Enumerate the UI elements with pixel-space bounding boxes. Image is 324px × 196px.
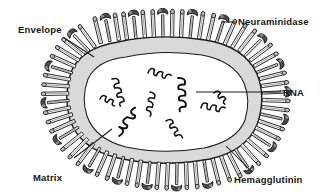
influenza-virus-diagram: Envelope Neuraminidase RNA Hemagglutinin… bbox=[0, 0, 324, 196]
label-hemagglutinin: Hemagglutinin bbox=[234, 174, 303, 185]
hemagglutinin-spike bbox=[151, 10, 156, 38]
neuraminidase-spike bbox=[141, 161, 155, 190]
neuraminidase-spike bbox=[157, 8, 168, 37]
hemagglutinin-spike bbox=[43, 73, 71, 82]
neuraminidase-spike bbox=[199, 159, 214, 189]
label-rna: RNA bbox=[283, 87, 304, 98]
hemagglutinin-spike bbox=[43, 106, 71, 115]
hemagglutinin-spike bbox=[262, 105, 290, 112]
hemagglutinin-spike bbox=[184, 162, 189, 190]
neuraminidase-spike bbox=[128, 10, 141, 39]
hemagglutinin-spike bbox=[155, 162, 161, 190]
label-matrix-protein: Matrix Protein bbox=[33, 150, 67, 196]
label-envelope: Envelope bbox=[18, 24, 62, 35]
hemagglutinin-spike bbox=[206, 13, 216, 41]
hemagglutinin-spike bbox=[193, 161, 199, 189]
neuraminidase-spike bbox=[185, 9, 198, 38]
hemagglutinin-spike bbox=[77, 24, 96, 49]
hemagglutinin-spike bbox=[165, 163, 170, 191]
hemagglutinin-spike bbox=[92, 16, 102, 44]
hemagglutinin-spike bbox=[197, 11, 205, 39]
label-neuraminidase: Neuraminidase bbox=[238, 16, 309, 27]
hemagglutinin-spike bbox=[125, 158, 134, 186]
hemagglutinin-spike bbox=[141, 10, 147, 38]
hemagglutinin-spike bbox=[121, 12, 129, 40]
label-matrix-protein-line1: Matrix bbox=[33, 172, 67, 183]
hemagglutinin-spike bbox=[263, 98, 291, 103]
hemagglutinin-spike bbox=[179, 9, 184, 37]
hemagglutinin-spike bbox=[113, 13, 121, 41]
neuraminidase-spike bbox=[171, 163, 182, 192]
hemagglutinin-spike bbox=[259, 70, 287, 80]
hemagglutinin-spike bbox=[42, 83, 70, 89]
hemagglutinin-spike bbox=[170, 9, 174, 37]
hemagglutinin-spike bbox=[41, 92, 69, 96]
